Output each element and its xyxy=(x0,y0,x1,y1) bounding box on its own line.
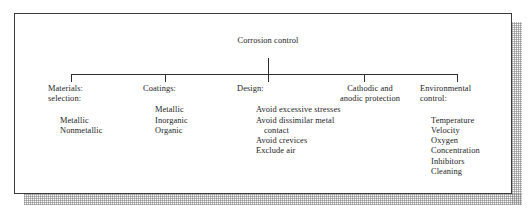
branch-materials: Materials: selection: Metallic Nonmetall… xyxy=(48,84,144,136)
list-item: Inorganic xyxy=(155,116,235,126)
figure-canvas: Corrosion control Materials: selection: … xyxy=(0,0,529,222)
branch-coatings-items: Metallic Inorganic Organic xyxy=(143,105,235,136)
list-item: Metallic xyxy=(60,116,144,126)
branch-environmental-items: Temperature Velocity Oxygen Concentratio… xyxy=(420,116,516,178)
list-item: Concentration xyxy=(431,146,516,156)
list-item: Metallic xyxy=(155,105,235,115)
list-item: Cleaning xyxy=(431,167,516,177)
list-item: Avoid dissimilar metal contact xyxy=(256,116,341,137)
branch-coatings-title: Coatings: xyxy=(143,84,235,94)
branch-environmental-control: Environmental control: Temperature Veloc… xyxy=(420,84,516,177)
list-item: Temperature xyxy=(431,116,516,126)
list-item: Avoid crevices xyxy=(256,136,341,146)
branch-design-items: Avoid excessive stresses Avoid dissimila… xyxy=(237,105,341,156)
list-item: Velocity xyxy=(431,126,516,136)
list-item: Oxygen xyxy=(431,136,516,146)
list-item: Avoid excessive stresses xyxy=(256,105,341,115)
list-item: Exclude air xyxy=(256,146,341,156)
branch-materials-items: Metallic Nonmetallic xyxy=(48,116,144,137)
branch-cathodic-anodic-protection: Cathodic and anodic protection xyxy=(322,84,418,105)
list-item: Inhibitors xyxy=(431,157,516,167)
list-item: Organic xyxy=(155,126,235,136)
list-item: Nonmetallic xyxy=(60,126,144,136)
branch-materials-title: Materials: selection: xyxy=(48,84,144,105)
root-node-corrosion-control: Corrosion control xyxy=(228,36,308,47)
branch-coatings: Coatings: Metallic Inorganic Organic xyxy=(143,84,235,136)
branch-environmental-title: Environmental control: xyxy=(420,84,516,105)
drop-shadow-bottom xyxy=(24,194,522,205)
branch-cathodic-title: Cathodic and anodic protection xyxy=(322,84,418,105)
